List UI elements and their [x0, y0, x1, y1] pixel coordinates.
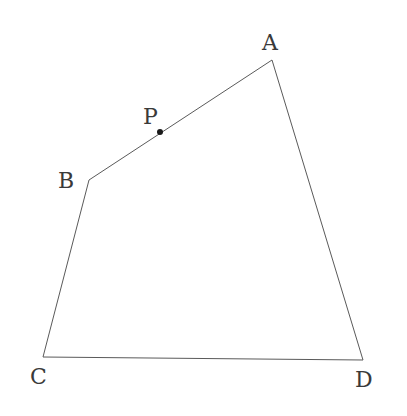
label-c: C [30, 364, 47, 389]
label-a: A [261, 30, 279, 55]
point-p-dot [157, 129, 163, 135]
label-p: P [143, 104, 158, 129]
label-d: D [355, 367, 373, 392]
quadrilateral-diagram: A B C D P [0, 0, 407, 416]
label-b: B [58, 168, 74, 193]
quadrilateral-abcd [43, 60, 363, 360]
